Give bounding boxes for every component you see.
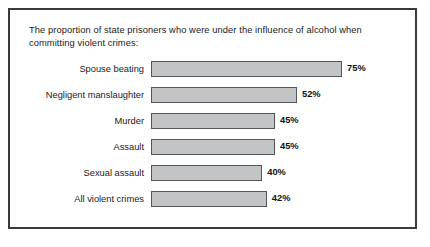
bar-value-label: 75% (347, 63, 366, 73)
bar-track: 40% (151, 165, 407, 181)
bar-fill (151, 191, 267, 207)
bar-row: All violent crimes 42% (10, 190, 415, 216)
bar-row: Sexual assault 40% (10, 164, 415, 190)
bar-value-label: 40% (267, 167, 286, 177)
bar-row: Spouse beating 75% (10, 60, 415, 86)
bar-fill (151, 113, 275, 129)
bar-fill (151, 87, 297, 103)
bar-value-label: 42% (272, 193, 291, 203)
bar-value-label: 45% (280, 141, 299, 151)
bar-category-label: Sexual assault (0, 167, 144, 179)
bar-track: 45% (151, 139, 407, 155)
bar-category-label: Assault (0, 141, 144, 153)
bar-row: Assault 45% (10, 138, 415, 164)
bar-category-label: Spouse beating (0, 63, 144, 75)
bar-row: Murder 45% (10, 112, 415, 138)
bar-value-label: 52% (302, 89, 321, 99)
bar-category-label: All violent crimes (0, 193, 144, 205)
bar-fill (151, 61, 342, 77)
bar-track: 45% (151, 113, 407, 129)
bar-category-label: Negligent manslaughter (0, 89, 144, 101)
bar-fill (151, 165, 262, 181)
bar-category-label: Murder (0, 115, 144, 127)
bar-row: Negligent manslaughter 52% (10, 86, 415, 112)
bar-fill (151, 139, 275, 155)
chart-title: The proportion of state prisoners who we… (29, 24, 397, 50)
bar-chart-plot-area: Spouse beating 75% Negligent manslaughte… (10, 60, 415, 216)
bar-track: 52% (151, 87, 407, 103)
bar-track: 75% (151, 61, 407, 77)
bar-track: 42% (151, 191, 407, 207)
chart-frame: The proportion of state prisoners who we… (8, 8, 417, 229)
bar-value-label: 45% (280, 115, 299, 125)
